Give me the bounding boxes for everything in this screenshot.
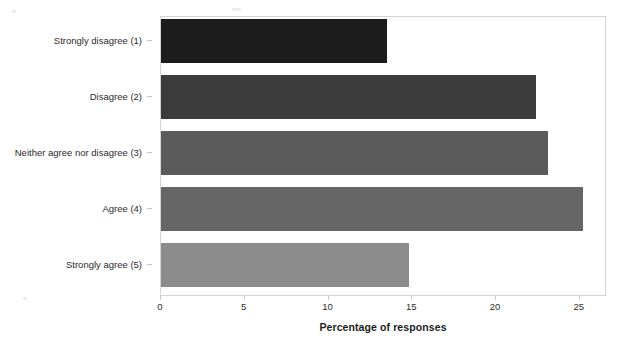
x-axis: 0 5 10 15 20 25	[160, 296, 606, 318]
x-axis-tick-0	[160, 296, 161, 300]
bar-chart-figure: Strongly disagree (1) Disagree (2) Neith…	[0, 0, 636, 347]
y-axis-label-0: Strongly disagree (1)	[54, 36, 142, 46]
y-axis-tick-1	[147, 96, 152, 97]
bar-row	[161, 243, 605, 287]
y-axis-tick-0	[147, 40, 152, 41]
bar-strongly-agree[interactable]	[161, 243, 409, 287]
x-axis-tick-label-0: 0	[157, 302, 162, 312]
x-axis-tick-3	[411, 296, 412, 300]
bar-row	[161, 19, 605, 63]
y-axis-label-2: Neither agree nor disagree (3)	[15, 148, 142, 158]
bar-neither-agree-nor-disagree[interactable]	[161, 131, 548, 175]
plot-area	[160, 16, 606, 296]
x-axis-tick-5	[579, 296, 580, 300]
bar-agree[interactable]	[161, 187, 583, 231]
x-axis-tick-2	[328, 296, 329, 300]
y-axis-label-1: Disagree (2)	[90, 92, 142, 102]
scan-artifact	[12, 10, 16, 13]
x-axis-tick-label-4: 20	[490, 302, 501, 312]
bar-row	[161, 187, 605, 231]
bar-strongly-disagree[interactable]	[161, 19, 387, 63]
x-axis-tick-label-5: 25	[574, 302, 585, 312]
y-axis: Strongly disagree (1) Disagree (2) Neith…	[0, 16, 152, 296]
x-axis-tick-4	[495, 296, 496, 300]
y-axis-tick-2	[147, 152, 152, 153]
y-axis-label-4: Strongly agree (5)	[66, 260, 142, 270]
scan-artifact	[232, 8, 241, 11]
x-axis-title: Percentage of responses	[160, 321, 606, 333]
scan-artifact	[23, 297, 27, 300]
bar-disagree[interactable]	[161, 75, 536, 119]
x-axis-tick-label-2: 10	[322, 302, 333, 312]
x-axis-tick-1	[244, 296, 245, 300]
bar-row	[161, 75, 605, 119]
bar-row	[161, 131, 605, 175]
y-axis-tick-3	[147, 208, 152, 209]
x-axis-tick-label-1: 5	[241, 302, 246, 312]
y-axis-tick-4	[147, 264, 152, 265]
x-axis-tick-label-3: 15	[406, 302, 417, 312]
y-axis-label-3: Agree (4)	[102, 204, 142, 214]
